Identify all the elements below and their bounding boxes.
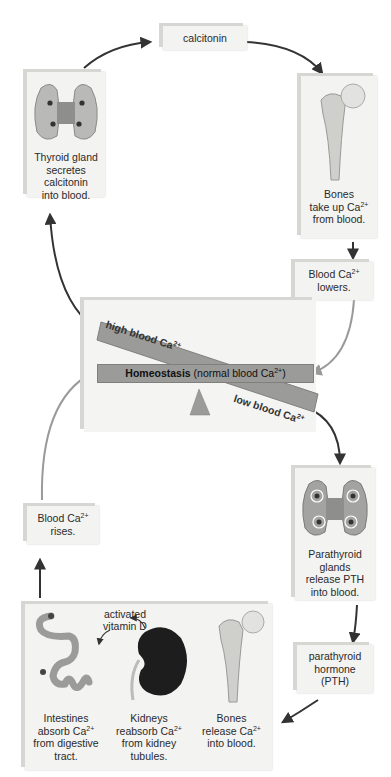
pth-line3: (PTH) xyxy=(297,675,373,688)
caption-text: reabsorb Ca xyxy=(116,725,174,737)
vitamin-d-line2: vitamin D xyxy=(93,620,157,632)
caption-line: absorb Ca2+ xyxy=(25,725,107,738)
femur-bone-icon xyxy=(219,611,264,702)
homeostasis-bar: Homeostasis (normal blood Ca2+) xyxy=(97,364,314,383)
superscript: 2+ xyxy=(174,725,182,732)
parathyroid-line4: into blood. xyxy=(295,586,375,599)
vitamin-d-arrow-left xyxy=(99,630,110,644)
caption-text: absorb Ca xyxy=(38,725,86,737)
kidneys-caption: Kidneys reabsorb Ca2+ from kidney tubule… xyxy=(107,712,191,762)
bones-release-caption: Bones release Ca2+ into blood. xyxy=(191,712,272,762)
blood-rises-line2: rises. xyxy=(27,525,99,538)
caption-text: release Ca xyxy=(202,725,253,737)
superscript: 2+ xyxy=(274,367,282,374)
caption-line: tract. xyxy=(25,750,107,763)
parathyroid-line2: glands xyxy=(295,561,375,574)
intestines-icon xyxy=(39,613,89,688)
caption-line: from digestive xyxy=(25,737,107,750)
caption-line: release Ca2+ xyxy=(191,725,272,738)
homeostasis-rest: (normal blood Ca xyxy=(191,367,274,379)
parathyroid-caption: Parathyroid glands release PTH into bloo… xyxy=(295,548,375,598)
effects-panel: activated vitamin D Intestines absorb Ca… xyxy=(25,604,272,770)
pth-line1: parathyroid xyxy=(297,650,373,663)
superscript: 2+ xyxy=(81,512,89,519)
intestines-caption: Intestines absorb Ca2+ from digestive tr… xyxy=(25,712,107,762)
parathyroid-line1: Parathyroid xyxy=(295,548,375,561)
parathyroid-box: Parathyroid glands release PTH into bloo… xyxy=(295,468,375,600)
parathyroid-glands-icon xyxy=(295,472,375,546)
kidney-icon xyxy=(132,627,187,700)
homeostasis-bold: Homeostasis xyxy=(125,367,190,379)
fulcrum-triangle xyxy=(190,389,210,415)
effects-captions: Intestines absorb Ca2+ from digestive tr… xyxy=(25,712,272,762)
vitamin-d-label: activated vitamin D xyxy=(93,608,157,632)
homeostasis-end: ) xyxy=(282,367,286,379)
caption-line: reabsorb Ca2+ xyxy=(107,725,191,738)
pth-box: parathyroid hormone (PTH) xyxy=(297,645,373,693)
blood-rises-line1: Blood Ca2+ xyxy=(27,512,99,525)
blood-rises-text: Blood Ca xyxy=(37,512,80,524)
caption-line: Intestines xyxy=(25,712,107,725)
superscript: 2+ xyxy=(253,725,261,732)
caption-line: from kidney xyxy=(107,737,191,750)
parathyroid-line3: release PTH xyxy=(295,573,375,586)
pth-line2: hormone xyxy=(297,663,373,676)
caption-line: tubules. xyxy=(107,750,191,763)
caption-line: Bones xyxy=(191,712,272,725)
superscript: 2+ xyxy=(86,725,94,732)
blood-rises-box: Blood Ca2+ rises. xyxy=(27,506,99,544)
caption-line: into blood. xyxy=(191,737,272,750)
vitamin-d-line1: activated xyxy=(93,608,157,620)
caption-line: Kidneys xyxy=(107,712,191,725)
